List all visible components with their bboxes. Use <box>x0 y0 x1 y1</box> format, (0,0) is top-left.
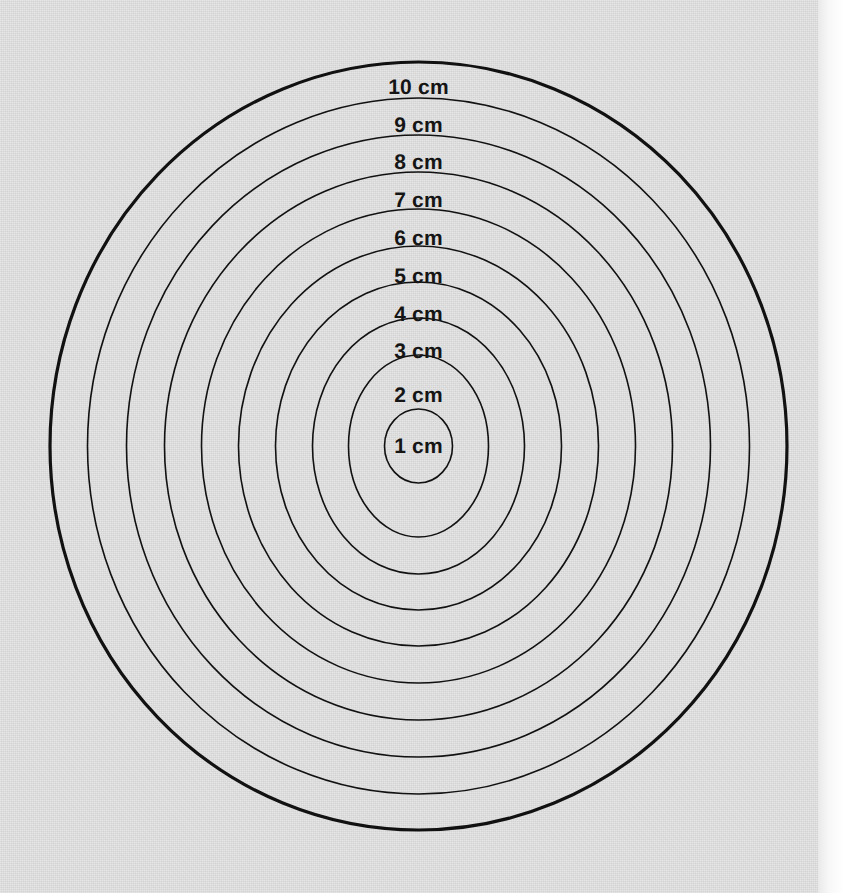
ring-label-10cm: 10 cm <box>388 76 449 100</box>
ring-label-5cm: 5 cm <box>394 265 443 289</box>
ring-label-6cm: 6 cm <box>394 227 443 251</box>
ring-label-9cm: 9 cm <box>394 114 443 138</box>
screenshot-page: 1 cm2 cm3 cm4 cm5 cm6 cm7 cm8 cm9 cm10 c… <box>0 0 844 893</box>
ring-label-1cm: 1 cm <box>394 435 443 459</box>
ring-label-4cm: 4 cm <box>394 303 443 327</box>
ring-label-2cm: 2 cm <box>394 384 443 408</box>
ring-label-3cm: 3 cm <box>394 340 443 364</box>
ring-label-7cm: 7 cm <box>394 189 443 213</box>
ring-label-8cm: 8 cm <box>394 151 443 175</box>
